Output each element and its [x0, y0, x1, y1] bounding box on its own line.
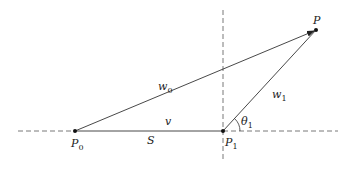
vector-w0 [75, 31, 314, 131]
geometry-diagram: P0 P1 P w0 w1 v S θ1 [0, 0, 351, 169]
label-S: S [147, 134, 155, 147]
label-theta1: θ1 [241, 115, 253, 130]
label-w1: w1 [272, 88, 287, 103]
vector-w1 [223, 30, 316, 131]
label-P0: P0 [70, 137, 84, 152]
point-P1 [221, 129, 225, 133]
point-P0 [73, 129, 77, 133]
label-v: v [165, 115, 172, 128]
label-w0: w0 [158, 80, 173, 95]
label-P1: P1 [224, 136, 238, 151]
theta-arc [235, 119, 241, 132]
point-P [314, 28, 318, 32]
label-P: P [312, 14, 321, 27]
